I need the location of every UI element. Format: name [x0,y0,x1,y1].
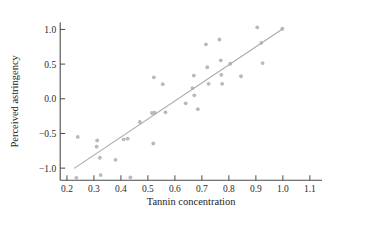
data-point [261,61,265,65]
x-tick-label: 0.5 [142,184,154,194]
x-tick-labels: 0.20.30.40.50.60.70.80.91.01.1 [61,184,316,194]
data-point [207,82,211,86]
y-tick-label: 0.5 [44,60,56,70]
data-point [220,82,224,86]
data-point [95,145,99,149]
x-tick-label: 0.7 [196,184,208,194]
data-point [196,107,200,111]
data-point [192,74,196,78]
y-axis-title: Perceived astringency [9,54,20,147]
regression-line [75,29,283,168]
data-point [204,42,208,46]
data-point [255,25,259,29]
data-point [151,142,155,146]
data-point [95,138,99,142]
data-point [76,135,80,139]
data-point [184,101,188,105]
y-tick-label: 1.0 [44,25,56,35]
y-tick-marks [60,29,65,168]
data-point [99,173,103,177]
data-point [161,82,165,86]
data-point [219,58,223,62]
plot-canvas: 1.00.50.0−0.5−1.0 0.20.30.40.50.60.70.80… [0,0,377,228]
data-point [205,65,209,69]
x-tick-label: 0.8 [223,184,235,194]
data-point [219,73,223,77]
y-tick-labels: 1.00.50.0−0.5−1.0 [39,25,56,174]
y-axis-group: 1.00.50.0−0.5−1.0 [39,23,65,181]
y-tick-label: 0.0 [44,94,56,104]
x-tick-label: 0.6 [169,184,181,194]
data-point [114,158,118,162]
y-tick-label: −0.5 [39,129,56,139]
data-point [128,176,132,180]
data-point [152,75,156,79]
data-point [126,137,130,141]
data-point [192,93,196,97]
x-tick-label: 0.2 [61,184,73,194]
x-axis-group: 0.20.30.40.50.60.70.80.91.01.1 [60,175,322,194]
data-point [239,74,243,78]
x-tick-label: 0.9 [250,184,262,194]
data-point [74,176,78,180]
x-tick-label: 1.0 [277,184,289,194]
x-tick-label: 1.1 [304,184,316,194]
data-point [98,156,102,160]
data-point [122,137,126,141]
x-tick-marks [67,175,310,180]
x-tick-label: 0.3 [88,184,100,194]
y-tick-label: −1.0 [39,164,56,174]
data-point [218,38,222,42]
x-axis-title: Tannin concentration [147,196,237,207]
x-tick-label: 0.4 [115,184,127,194]
data-point [164,110,168,114]
scatter-plot-figure: 1.00.50.0−0.5−1.0 0.20.30.40.50.60.70.80… [0,0,377,228]
